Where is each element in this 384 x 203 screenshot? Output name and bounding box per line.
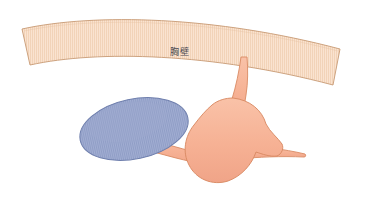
anatomy-diagram [0, 0, 384, 203]
chest-wall-label: 胸壁 [170, 48, 189, 57]
illustration-canvas: 胸壁 [0, 0, 384, 203]
vessel-central-body [185, 98, 283, 183]
